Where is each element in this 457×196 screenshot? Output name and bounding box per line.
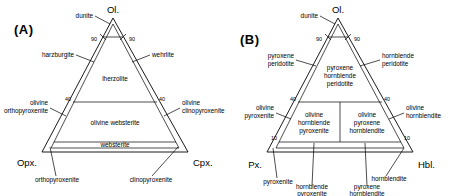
ultramafic-classification-figure: (A) Ol. Opx. Cpx. 90 90 40 40 lherzolite… — [0, 0, 457, 196]
tick-label-10-left-b: 10 — [271, 135, 277, 141]
tick-label-40-right-b: 40 — [384, 96, 390, 102]
callout-label-pyroxene-peridotite-line1: pyroxene — [268, 52, 295, 60]
field-label-olivine-hornblende-pyroxenite-line3: pyroxenite — [299, 127, 329, 135]
leader-dunite-a — [95, 16, 110, 24]
callout-label-dunite-a: dunite — [76, 12, 94, 19]
field-label-pyroxene-hornblende-peridotite-line3: peridotite — [327, 80, 354, 88]
leader-olivine-clinopyroxenite-a — [164, 108, 180, 116]
vertex-label-ol-a: Ol. — [107, 4, 119, 15]
tick-label-40-left-a: 40 — [65, 96, 71, 102]
callout-label-hornblende-pyroxenite-line1: hornblende — [296, 183, 328, 190]
callout-label-pyroxenite: pyroxenite — [263, 178, 293, 186]
leader-pyroxene-peridotite-b — [296, 60, 316, 66]
callout-label-olivine-clinopyroxenite-line2: clinopyroxenite — [182, 107, 225, 115]
leader-hornblende-pyroxenite-b — [312, 143, 314, 186]
field-label-olivine-hornblende-pyroxenite-line1: olivine — [305, 111, 324, 118]
callout-label-hornblende-peridotite-line2: peridotite — [382, 60, 409, 68]
field-label-olivine-pyroxene-hornblendite-line1: olivine — [358, 111, 377, 118]
field-label-olivine-hornblende-pyroxenite-line2: hornblende — [298, 119, 330, 126]
callout-label-hornblende-peridotite-line1: hornblende — [382, 52, 414, 59]
field-label-olivine-websterite: olivine websterite — [90, 119, 139, 126]
callout-label-olivine-orthopyroxenite-line1: olivine — [30, 99, 49, 106]
tick-label-90-left-b: 90 — [316, 36, 322, 42]
callout-label-dunite-b: dunite — [301, 12, 319, 19]
callout-label-pyroxene-hornblendite-line2: hornblendite — [349, 190, 385, 196]
callout-label-olivine-pyroxenite-line1: olivine — [256, 104, 275, 111]
tick-label-90-right-b: 90 — [354, 36, 360, 42]
leader-clinopyroxenite-a — [152, 147, 178, 176]
callout-label-olivine-hornblendite-line2: hornblendite — [406, 112, 442, 119]
callout-label-hornblendite: hornblendite — [371, 175, 407, 182]
panel-b-label: (B) — [240, 32, 260, 47]
tick-label-10-right-b: 10 — [404, 135, 410, 141]
field-label-pyroxene-hornblende-peridotite-line1: pyroxene — [327, 64, 354, 72]
leader-orthopyroxenite-a — [50, 147, 56, 176]
callout-label-pyroxene-peridotite-line2: peridotite — [268, 60, 295, 68]
panel-a-drawing: (A) Ol. Opx. Cpx. 90 90 40 40 lherzolite… — [0, 0, 229, 196]
vertex-label-opx-a: Opx. — [17, 157, 37, 168]
panel-a-label: (A) — [14, 22, 34, 37]
leader-olivine-pyroxenite-b — [276, 113, 291, 119]
outer-triangle-a — [42, 18, 188, 152]
callout-label-olivine-pyroxenite-line2: pyroxenite — [245, 112, 275, 120]
panel-a: (A) Ol. Opx. Cpx. 90 90 40 40 lherzolite… — [0, 0, 229, 196]
panel-b: (B) Ol. Px. Hbl. 90 90 40 40 10 10 pyrox… — [228, 0, 457, 196]
inner-triangle-a — [51, 24, 179, 148]
callout-label-olivine-clinopyroxenite-line1: olivine — [182, 99, 201, 106]
field-label-websterite: websterite — [99, 141, 130, 148]
leader-dunite-b — [320, 16, 335, 24]
tick-label-90-right-a: 90 — [129, 36, 135, 42]
callout-label-hornblende-pyroxenite-line2: pyroxenite — [297, 190, 327, 196]
leader-pyroxene-hornblendite-b — [365, 143, 367, 186]
panel-b-drawing: (B) Ol. Px. Hbl. 90 90 40 40 10 10 pyrox… — [228, 0, 457, 196]
vertex-label-cpx-a: Cpx. — [193, 157, 213, 168]
field-label-lherzolite: lherzolite — [102, 75, 128, 82]
callout-label-harzburgite: harzburgite — [42, 51, 74, 59]
tick-label-90-left-a: 90 — [91, 36, 97, 42]
callout-label-orthopyroxenite: orthopyroxenite — [35, 176, 79, 184]
tick-label-40-left-b: 40 — [290, 96, 296, 102]
tick-label-40-right-a: 40 — [159, 96, 165, 102]
vertex-label-ol-b: Ol. — [332, 4, 344, 15]
vertex-label-px-b: Px. — [248, 159, 262, 170]
callout-label-wehrlite: wehrlite — [151, 51, 174, 58]
field-label-olivine-pyroxene-hornblendite-line3: hornblendite — [349, 127, 385, 134]
vertex-label-hbl-b: Hbl. — [418, 159, 435, 170]
field-label-pyroxene-hornblende-peridotite-line2: hornblende — [324, 72, 356, 79]
leader-pyroxenite-b — [273, 148, 277, 178]
field-label-olivine-pyroxene-hornblendite-line2: pyroxene — [354, 119, 381, 127]
callout-label-clinopyroxenite: clinopyroxenite — [130, 176, 173, 184]
callout-label-olivine-hornblendite-line1: olivine — [406, 104, 425, 111]
callout-label-olivine-orthopyroxenite-line2: orthopyroxenite — [4, 107, 48, 115]
